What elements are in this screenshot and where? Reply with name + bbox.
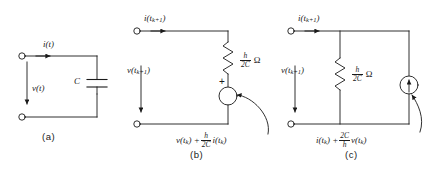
circuit-b-source-numerator: h (201, 132, 212, 140)
caption-a: (a) (42, 131, 55, 142)
circuit-c-voltage-v: v(t (281, 65, 291, 75)
circuit-c-source-plus: ) + (327, 135, 338, 145)
circuit-a-current-label: i(t) (43, 40, 54, 49)
circuit-c-resistor-denominator: 2C (352, 74, 363, 83)
circuit-b-voltage-end: ) (147, 65, 150, 75)
caption-c: (c) (345, 149, 358, 160)
circuit-b-current-label: i(tk+1) (144, 14, 166, 24)
circuit-c-resistor-numerator: h (352, 66, 363, 74)
circuit-c-current-label: i(tk+1) (298, 14, 320, 24)
circuit-b-source-label: v(tk) +h2Ci(tk) (176, 132, 226, 148)
circuit-a-capacitor-label: C (74, 77, 80, 86)
figure-capacitor-companion-models: i(t) v(t) C (a) i(tk+1) v(tk+1) h2CΩ + v… (0, 0, 429, 169)
circuit-b-resistor-fraction: h2C (240, 52, 251, 68)
circuit-b-resistor-denominator: 2C (240, 60, 251, 69)
circuit-b-source-fraction: h2C (201, 132, 212, 148)
circuit-c-resistor-label: h2CΩ (351, 66, 372, 82)
circuit-c-source-numerator: 2C (339, 132, 350, 140)
circuit-c-voltage-label: v(tk+1) (281, 66, 304, 76)
circuit-b-voltage-subscript: k+1 (137, 68, 148, 75)
circuit-b-source-i-end: ) (223, 135, 226, 145)
circuit-b-source-v: v(t (176, 135, 186, 145)
circuit-b-wires (134, 28, 269, 134)
circuit-c-source-label: i(tk) +2Chv(tk) (316, 132, 366, 148)
circuit-c-resistor-fraction: h2C (352, 66, 363, 82)
circuit-b-source-denominator: 2C (201, 140, 212, 149)
circuit-c-source-i: i(t (316, 135, 324, 145)
circuit-b-current-end: ) (163, 13, 166, 23)
circuit-c-current-end: ) (317, 13, 320, 23)
circuit-c-resistor-unit: Ω (366, 69, 373, 79)
circuit-b-resistor-numerator: h (240, 52, 251, 60)
circuit-b-resistor-label: h2CΩ (239, 52, 260, 68)
circuit-a-voltage-label: v(t) (32, 84, 45, 93)
circuit-c-current-i: i(t (298, 13, 306, 23)
circuit-c-voltage-end: ) (301, 65, 304, 75)
circuit-c-source-v-end: ) (363, 135, 366, 145)
circuit-c-voltage-subscript: k+1 (291, 68, 302, 75)
circuit-b-current-i: i(t (144, 13, 152, 23)
circuit-b-source-polarity: + (219, 76, 225, 87)
circuit-b-voltage-v: v(t (127, 65, 137, 75)
circuit-b-resistor-unit: Ω (254, 55, 261, 65)
circuit-c-current-subscript: k+1 (306, 16, 317, 23)
circuit-b-current-subscript: k+1 (152, 16, 163, 23)
caption-b: (b) (190, 149, 203, 160)
circuit-b-source-plus: ) + (188, 135, 199, 145)
circuit-c-source-fraction: 2Ch (339, 132, 350, 148)
circuit-c-source-denominator: h (339, 140, 350, 149)
circuit-b-voltage-label: v(tk+1) (127, 66, 150, 76)
